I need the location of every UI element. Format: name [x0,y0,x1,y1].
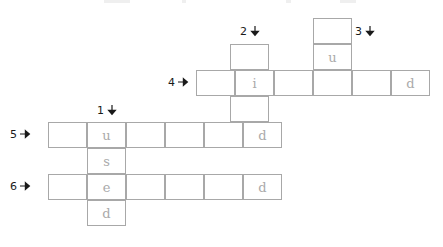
crossword-puzzle: usediduiduded123456 [0,0,443,247]
clue-label-3-down[interactable]: 3 [355,25,376,37]
crossword-cell-filled[interactable]: d [391,70,430,96]
clue-number: 1 [97,105,104,116]
crossword-cell-filled[interactable]: s [87,148,126,174]
top-edge-remnant [340,0,356,3]
top-edge-remnant [286,0,291,3]
crossword-cell-empty[interactable] [165,122,204,148]
clue-label-5-across[interactable]: 5 [10,128,31,140]
top-edge-remnant [182,0,186,3]
arrow-down-icon [106,104,118,116]
clue-number: 2 [240,26,247,37]
crossword-cell-filled[interactable]: i [235,70,274,96]
crossword-cell-empty[interactable] [352,70,391,96]
arrow-right-icon [19,180,31,192]
crossword-cell-empty[interactable] [230,96,269,122]
top-edge-remnant [104,0,130,3]
crossword-cell-filled[interactable]: d [243,122,282,148]
crossword-cell-empty[interactable] [313,18,352,44]
clue-number: 5 [10,129,17,140]
crossword-cell-empty[interactable] [126,122,165,148]
crossword-cell-empty[interactable] [48,122,87,148]
crossword-cell-empty[interactable] [313,70,352,96]
crossword-cell-empty[interactable] [230,44,269,70]
crossword-cell-filled[interactable]: u [313,44,352,70]
crossword-cell-filled[interactable]: d [243,174,282,200]
crossword-cell-empty[interactable] [204,122,243,148]
clue-number: 6 [10,181,17,192]
arrow-right-icon [177,76,189,88]
crossword-cell-filled[interactable]: d [87,200,126,226]
crossword-cell-empty[interactable] [126,174,165,200]
clue-number: 4 [168,77,175,88]
clue-label-1-down[interactable]: 1 [97,104,118,116]
crossword-cell-filled[interactable]: u [87,122,126,148]
crossword-cell-empty[interactable] [204,174,243,200]
crossword-cell-filled[interactable]: e [87,174,126,200]
crossword-cell-empty[interactable] [274,70,313,96]
crossword-cell-empty[interactable] [165,174,204,200]
arrow-down-icon [249,25,261,37]
crossword-cell-empty[interactable] [48,174,87,200]
crossword-cell-empty[interactable] [196,70,235,96]
clue-label-2-down[interactable]: 2 [240,25,261,37]
clue-label-4-across[interactable]: 4 [168,76,189,88]
clue-label-6-across[interactable]: 6 [10,180,31,192]
arrow-down-icon [364,25,376,37]
arrow-right-icon [19,128,31,140]
clue-number: 3 [355,26,362,37]
